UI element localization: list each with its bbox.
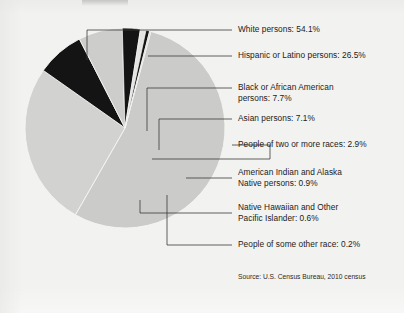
- callout-label-black-african-american: Black or African American persons: 7.7%: [238, 82, 334, 103]
- source-note: Source: U.S. Census Bureau, 2010 census: [238, 272, 366, 281]
- callout-label-two-or-more-races: People of two or more races: 2.9%: [238, 139, 367, 150]
- callout-label-layer: White persons: 54.1% Hispanic or Latino …: [0, 0, 404, 313]
- callout-label-asian-persons: Asian persons: 7.1%: [238, 113, 315, 124]
- callout-label-white-persons: White persons: 54.1%: [238, 24, 320, 35]
- callout-label-some-other-race: People of some other race: 0.2%: [238, 239, 360, 250]
- callout-label-american-indian-alaska: American Indian and Alaska Native person…: [238, 167, 342, 188]
- callout-label-native-hawaiian-pacific: Native Hawaiian and Other Pacific Island…: [238, 202, 338, 223]
- pie-chart-figure: White persons: 54.1% Hispanic or Latino …: [0, 0, 404, 313]
- callout-label-hispanic-latino: Hispanic or Latino persons: 26.5%: [238, 50, 366, 61]
